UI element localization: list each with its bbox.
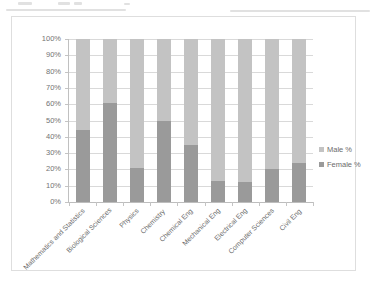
bar-column[interactable] bbox=[184, 39, 198, 202]
bar-column[interactable] bbox=[238, 39, 252, 202]
y-axis-tick-label: 30% bbox=[46, 149, 61, 157]
y-axis-tick-label: 10% bbox=[46, 182, 61, 190]
bar-column[interactable] bbox=[130, 39, 144, 202]
legend-label-female: Female % bbox=[327, 160, 361, 169]
bar-segment-male[interactable] bbox=[76, 39, 90, 130]
bar-segment-male[interactable] bbox=[130, 39, 144, 168]
y-axis-tick-label: 20% bbox=[46, 165, 61, 173]
y-axis-tick-label: 90% bbox=[46, 51, 61, 59]
bar-segment-female[interactable] bbox=[211, 181, 225, 202]
bar-column[interactable] bbox=[103, 39, 117, 202]
x-axis-category-label: Physics bbox=[118, 207, 141, 230]
y-axis-tick-label: 100% bbox=[42, 35, 61, 43]
bar-column[interactable] bbox=[211, 39, 225, 202]
bar-segment-male[interactable] bbox=[211, 39, 225, 181]
y-axis-labels: 100%90%80%70%60%50%40%30%20%10%0% bbox=[12, 33, 69, 208]
bar-segment-female[interactable] bbox=[76, 130, 90, 202]
scan-artifacts bbox=[0, 0, 373, 14]
bar-column[interactable] bbox=[157, 39, 171, 202]
legend-label-male: Male % bbox=[327, 145, 352, 154]
legend-item-male[interactable]: Male % bbox=[319, 145, 369, 154]
bar-segment-male[interactable] bbox=[238, 39, 252, 182]
bar-segment-female[interactable] bbox=[157, 121, 171, 203]
bar-column[interactable] bbox=[292, 39, 306, 202]
bar-segment-female[interactable] bbox=[238, 182, 252, 202]
chart-frame: 100%90%80%70%60%50%40%30%20%10%0% Mathem… bbox=[11, 16, 356, 271]
plot-area bbox=[69, 39, 313, 202]
x-axis-labels: Mathematics and StatisticsBiological Sci… bbox=[12, 205, 357, 271]
bar-segment-male[interactable] bbox=[184, 39, 198, 145]
bar-segment-male[interactable] bbox=[157, 39, 171, 121]
legend-swatch-male bbox=[319, 147, 324, 152]
legend-swatch-female bbox=[319, 162, 324, 167]
chart-legend: Male %Female % bbox=[319, 145, 369, 175]
y-axis-tick-label: 70% bbox=[46, 84, 61, 92]
bar-segment-female[interactable] bbox=[103, 103, 117, 202]
bar-segment-female[interactable] bbox=[265, 169, 279, 202]
bar-series-group bbox=[69, 39, 313, 202]
bar-column[interactable] bbox=[76, 39, 90, 202]
bar-segment-female[interactable] bbox=[184, 145, 198, 202]
y-axis-tick-label: 40% bbox=[46, 133, 61, 141]
y-axis-tick-label: 60% bbox=[46, 100, 61, 108]
bar-segment-male[interactable] bbox=[103, 39, 117, 103]
x-axis-category-label: Civil Eng bbox=[278, 207, 303, 232]
bar-segment-male[interactable] bbox=[292, 39, 306, 163]
bar-segment-female[interactable] bbox=[130, 168, 144, 202]
bar-segment-female[interactable] bbox=[292, 163, 306, 202]
y-axis-tick-label: 80% bbox=[46, 68, 61, 76]
y-axis-tick-label: 50% bbox=[46, 117, 61, 125]
bar-segment-male[interactable] bbox=[265, 39, 279, 169]
bar-column[interactable] bbox=[265, 39, 279, 202]
legend-item-female[interactable]: Female % bbox=[319, 160, 369, 169]
